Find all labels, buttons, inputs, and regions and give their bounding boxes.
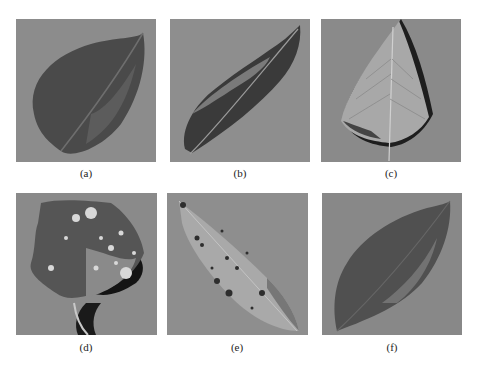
caption-f: (f)	[362, 341, 422, 353]
leaf-image-d	[16, 193, 157, 335]
leaf-f-graphic	[322, 193, 462, 335]
caption-b: (b)	[210, 167, 270, 179]
leaf-e-graphic	[167, 193, 308, 335]
caption-d: (d)	[56, 341, 116, 353]
leaf-image-b	[170, 19, 310, 162]
leaf-image-c	[321, 19, 461, 162]
leaf-c-graphic	[321, 19, 461, 162]
caption-c: (c)	[361, 167, 421, 179]
leaf-image-e	[167, 193, 308, 335]
leaf-d-graphic	[16, 193, 157, 335]
leaf-a-graphic	[16, 19, 156, 162]
leaf-image-a	[16, 19, 156, 162]
caption-e: (e)	[207, 341, 267, 353]
caption-a: (a)	[56, 167, 116, 179]
leaf-b-graphic	[170, 19, 310, 162]
leaf-image-f	[322, 193, 462, 335]
